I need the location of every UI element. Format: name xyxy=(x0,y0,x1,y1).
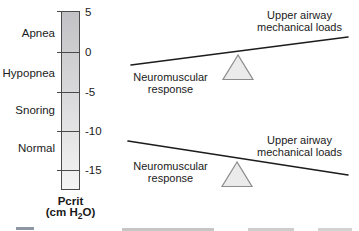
tick-line-neg10 xyxy=(57,131,80,132)
caption-fragment xyxy=(16,227,34,230)
upper-airway-loads-line1: Upper airway xyxy=(254,134,345,146)
neuromuscular-response-label-bottom: Neuromuscular response xyxy=(128,160,213,184)
tick-label-5: 5 xyxy=(85,5,119,19)
upper-airway-loads-label-top: Upper airway mechanical loads xyxy=(254,9,345,33)
category-label-snoring: Snoring xyxy=(0,104,55,117)
scale-units-prefix: (cm H xyxy=(46,206,78,218)
tick-line-5 xyxy=(57,11,80,12)
category-label-hypopnea: Hypopnea xyxy=(0,67,55,80)
tick-label-0: 0 xyxy=(85,45,119,59)
tick-line-neg15 xyxy=(57,170,80,171)
tick-label-neg10: -10 xyxy=(85,124,119,138)
caption-fragment xyxy=(318,228,352,231)
neuromuscular-response-line2: response xyxy=(128,83,213,95)
scale-units-suffix: O) xyxy=(82,206,95,218)
upper-airway-loads-line2: mechanical loads xyxy=(254,146,345,158)
neuromuscular-response-line1: Neuromuscular xyxy=(128,71,213,83)
neuromuscular-response-line2: response xyxy=(128,172,213,184)
tick-line-neg5 xyxy=(57,92,80,93)
caption-fragment xyxy=(122,228,214,231)
caption-fragment xyxy=(248,228,294,231)
pcrit-scale-bar xyxy=(61,11,80,190)
tick-line-0 xyxy=(57,52,80,53)
upper-airway-loads-line2: mechanical loads xyxy=(254,21,345,33)
tick-label-neg5: -5 xyxy=(85,85,119,99)
pcrit-balance-figure: Apnea Hypopnea Snoring Normal 5 0 -5 -10… xyxy=(0,0,359,231)
upper-airway-loads-label-bottom: Upper airway mechanical loads xyxy=(254,134,345,158)
upper-airway-loads-line1: Upper airway xyxy=(254,9,345,21)
tick-label-neg15: -15 xyxy=(85,163,119,177)
category-label-normal: Normal xyxy=(0,142,55,155)
scale-units: (cm H2O) xyxy=(25,206,116,223)
neuromuscular-response-line1: Neuromuscular xyxy=(128,160,213,172)
bottom-fulcrum-triangle-icon xyxy=(222,162,252,187)
category-label-apnea: Apnea xyxy=(0,27,55,40)
top-fulcrum-triangle-icon xyxy=(223,55,253,80)
neuromuscular-response-label-top: Neuromuscular response xyxy=(128,71,213,95)
